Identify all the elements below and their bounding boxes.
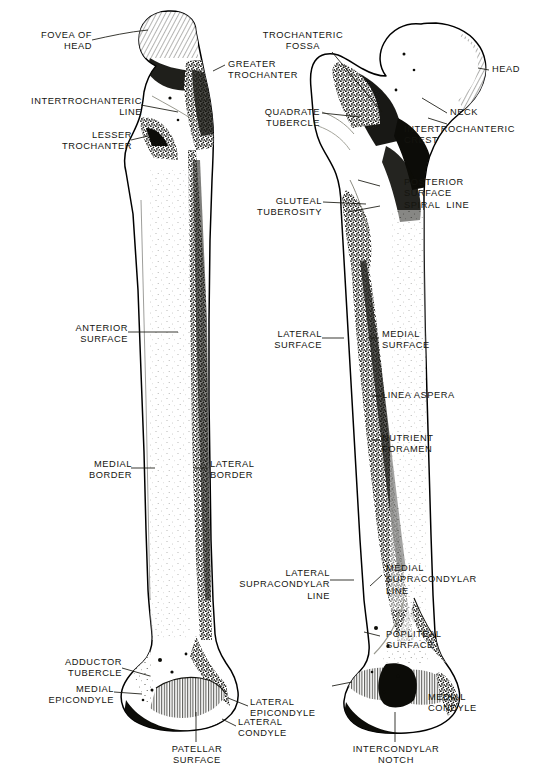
label-lateral-condyle: LATERAL CONDYLE (238, 717, 318, 740)
label-popliteal-surface: POPLITEAL SURFACE (386, 629, 470, 652)
label-gluteal-tuberosity: GLUTEAL TUBEROSITY (242, 196, 322, 219)
label-intertrochanteric-line: INTERTROCHANTERIC LINE (4, 96, 142, 119)
label-lesser-trochanter: LESSER TROCHANTER (36, 130, 132, 153)
femur-figure: FOVEA OF HEAD INTERTROCHANTERIC LINE LES… (0, 0, 548, 775)
label-fovea-of-head: FOVEA OF HEAD (8, 30, 92, 53)
label-nutrient-foramen: NUTRIENT FORAMEN (382, 433, 462, 456)
anterior-femur (121, 11, 238, 735)
label-intercondylar-notch: INTERCONDYLAR NOTCH (344, 744, 448, 767)
label-neck: NECK (450, 107, 494, 118)
label-patellar-surface: PATELLAR SURFACE (158, 744, 236, 767)
label-lateral-supracondylar-line: LATERAL SUPRACONDYLAR LINE (230, 568, 330, 602)
label-quadrate-tubercle: QUADRATE TUBERCLE (244, 107, 320, 130)
label-linea-aspera: LINEA ASPERA (382, 390, 486, 401)
label-posterior-surface: POSTERIOR SURFACE (404, 177, 484, 200)
label-medial-supracondylar-line: MEDIAL SUPRACONDYLAR LINE (386, 563, 496, 597)
label-anterior-surface: ANTERIOR SURFACE (42, 323, 128, 346)
label-adductor-tubercle: ADDUCTOR TUBERCLE (26, 657, 122, 680)
label-head: HEAD (492, 64, 536, 75)
label-trochanteric-fossa: TROCHANTERIC FOSSA (256, 30, 350, 53)
label-intertrochanteric-crest: INTERTROCHANTERIC CREST (404, 124, 536, 147)
label-medial-border: MEDIAL BORDER (52, 459, 132, 482)
label-medial-epicondyle: MEDIAL EPICONDYLE (16, 684, 114, 707)
label-lateral-border: LATERAL BORDER (210, 459, 290, 482)
label-greater-trochanter: GREATER TROCHANTER (228, 59, 328, 82)
label-lateral-surface: LATERAL SURFACE (244, 329, 322, 352)
label-spiral-line: SPIRAL LINE (404, 200, 498, 211)
label-medial-condyle: MEDIAL CONDYLE (428, 692, 508, 715)
label-medial-surface: MEDIAL SURFACE (382, 329, 460, 352)
